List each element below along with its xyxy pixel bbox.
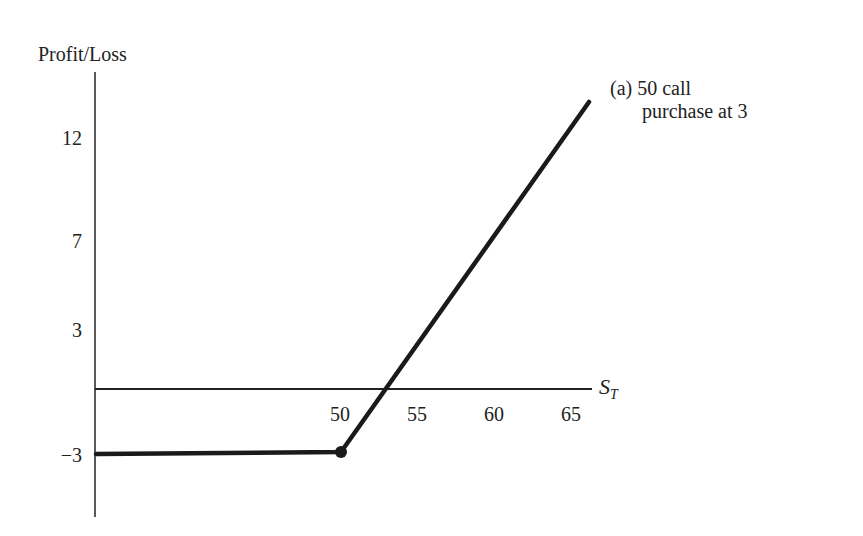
chart-annotation-line1: (a) 50 call <box>610 78 691 98</box>
payoff-line <box>96 102 589 454</box>
y-axis-label: Profit/Loss <box>38 44 127 64</box>
x-tick-65: 65 <box>551 404 591 424</box>
y-tick-3: 3 <box>22 320 82 340</box>
y-tick-neg3: −3 <box>22 445 82 465</box>
x-axis-label: ST <box>599 376 618 402</box>
x-axis-label-subscript: T <box>610 387 618 402</box>
x-tick-60: 60 <box>474 404 514 424</box>
y-tick-12: 12 <box>22 128 82 148</box>
strike-point-marker <box>335 446 347 458</box>
chart-canvas <box>0 0 863 536</box>
x-tick-55: 55 <box>397 404 437 424</box>
x-tick-50: 50 <box>320 404 360 424</box>
x-axis-label-main: S <box>599 374 610 399</box>
y-tick-7: 7 <box>22 231 82 251</box>
chart-annotation-line2: purchase at 3 <box>642 101 748 121</box>
